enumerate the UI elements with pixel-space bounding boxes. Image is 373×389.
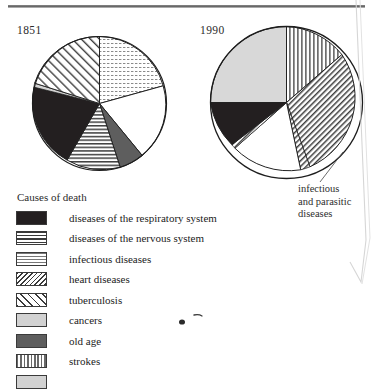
header-rule [8, 5, 365, 8]
legend-label-heart: heart diseases [69, 273, 130, 285]
legend-title: Causes of death [16, 191, 256, 203]
legend-swatch-old-age-icon [16, 334, 47, 348]
legend-label-infectious: infectious diseases [69, 253, 151, 265]
legend-item-old-age: old age [16, 333, 256, 348]
legend-swatch-strokes-icon [16, 354, 47, 368]
legend-label-old-age: old age [69, 335, 101, 347]
callout-line-2: and parasitic [298, 196, 370, 209]
pie-chart-1990 [209, 25, 364, 180]
legend-swatch-respiratory-icon [16, 211, 47, 225]
callout-infectious-parasitic: infectious and parasitic diseases [298, 183, 370, 221]
legend: Causes of death diseases of the respirat… [16, 191, 256, 389]
legend-swatch-infectious-icon [16, 252, 47, 266]
legend-label-nervous: diseases of the nervous system [69, 232, 204, 244]
legend-swatch-heart-icon [16, 272, 47, 286]
legend-item-tuberculosis: tuberculosis [16, 292, 256, 307]
legend-item-strokes: strokes [16, 354, 256, 369]
legend-item-respiratory: diseases of the respiratory system [16, 210, 256, 225]
legend-item-heart: heart diseases [16, 272, 256, 287]
pie-1990-svg [209, 25, 364, 180]
legend-item-infectious: infectious diseases [16, 251, 256, 266]
pie-1851-svg [31, 35, 168, 172]
callout-line-1: infectious [298, 183, 370, 196]
legend-swatch-cancers-icon [16, 313, 47, 327]
legend-label-cancers: cancers [69, 314, 102, 326]
legend-swatch-cutoff-icon [16, 375, 47, 389]
legend-swatch-tuberculosis-icon [16, 293, 47, 307]
legend-label-tuberculosis: tuberculosis [69, 294, 122, 306]
callout-line-3: diseases [298, 208, 370, 221]
legend-item-cancers: cancers [16, 313, 256, 328]
legend-label-strokes: strokes [69, 355, 100, 367]
pie-1990-slice-cancers [211, 27, 287, 103]
legend-item-nervous: diseases of the nervous system [16, 231, 256, 246]
legend-item-cutoff [16, 374, 256, 389]
legend-swatch-nervous-icon [16, 231, 47, 245]
pie-chart-1851 [31, 35, 168, 172]
legend-label-respiratory: diseases of the respiratory system [69, 212, 217, 224]
